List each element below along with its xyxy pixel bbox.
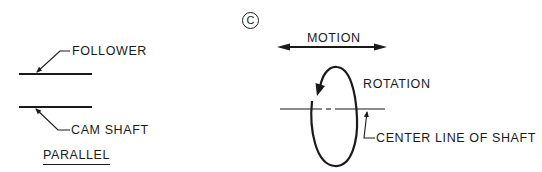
figure-label-circle: C [242, 12, 259, 29]
diagram-graphics [0, 0, 542, 172]
figure-label: C [247, 14, 255, 26]
motion-arrowhead-right [374, 44, 387, 51]
cam-shaft-leader-arrow [36, 109, 70, 130]
follower-label: FOLLOWER [72, 45, 147, 58]
parallel-title: PARALLEL [43, 149, 110, 165]
cam-follower-diagram: C FOLLOWER CAM SHAFT PARALLEL MOTION ROT… [0, 0, 542, 172]
parallel-diagram-graphics [19, 51, 92, 130]
rotation-ellipse-arrow [311, 67, 357, 166]
center-line-label: CENTER LINE OF SHAFT [376, 132, 536, 145]
motion-label: MOTION [307, 32, 361, 45]
rotation-arrowhead [316, 83, 326, 96]
rotation-diagram-graphics [277, 44, 387, 167]
cam-shaft-label: CAM SHAFT [71, 124, 149, 137]
rotation-label: ROTATION [363, 78, 431, 91]
motion-arrowhead-left [277, 44, 290, 51]
center-line-leader-arrow [364, 112, 375, 138]
follower-leader-arrow [37, 51, 70, 72]
